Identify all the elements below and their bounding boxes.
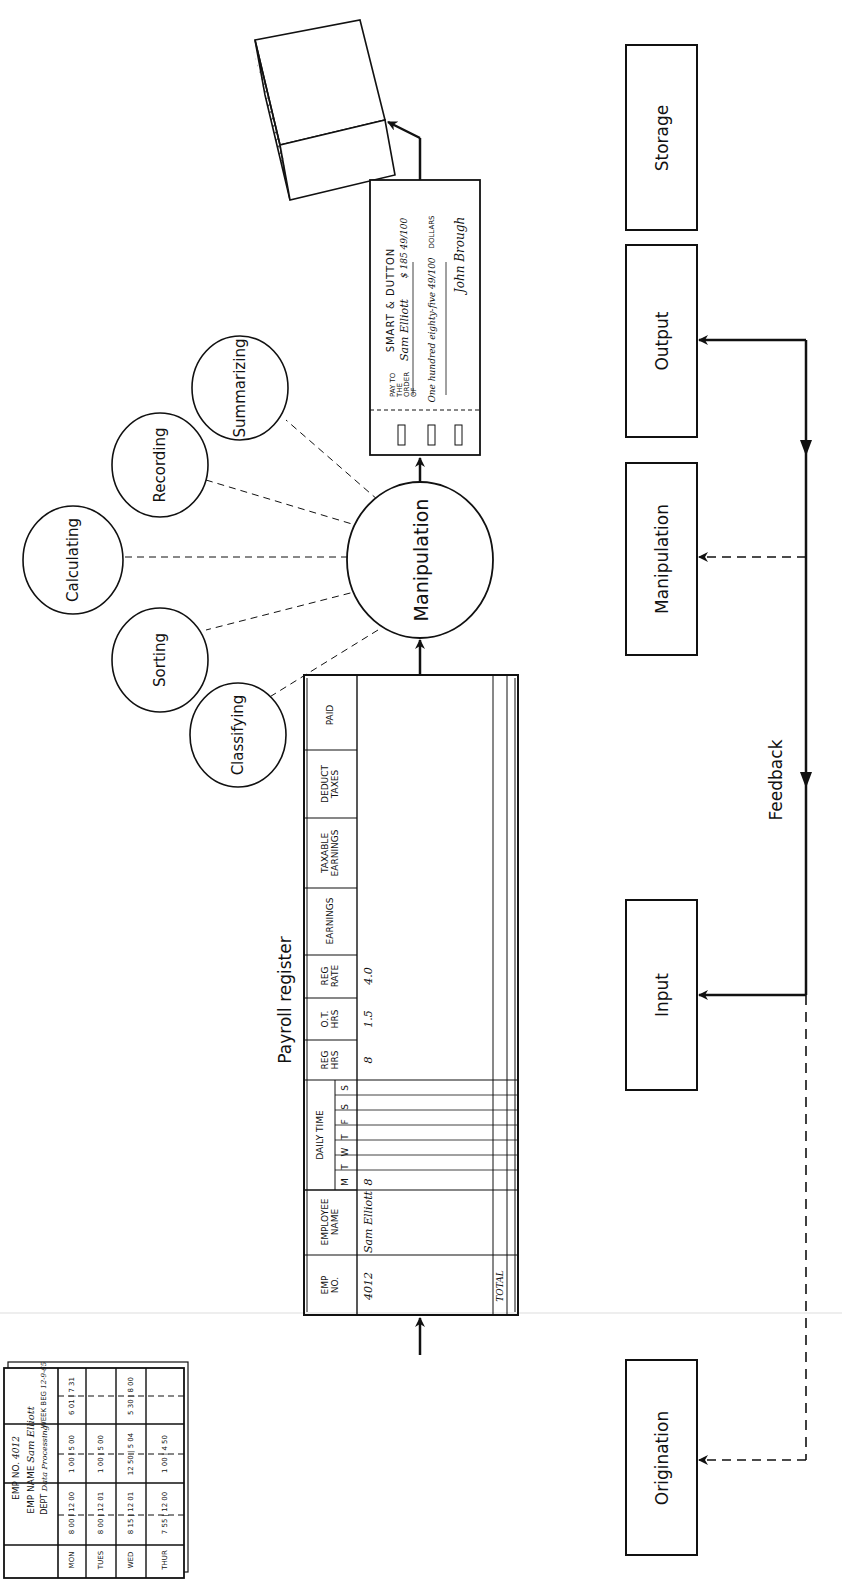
manipulation-circle-label: Manipulation xyxy=(410,499,432,622)
storage-label: Storage xyxy=(652,105,672,172)
tc-emp-no-label: EMP NO. 4012 xyxy=(11,1436,21,1500)
tc-mon-pm: 1 00 | 5 00 xyxy=(68,1435,76,1473)
tc-mon-am: 8 00 | 12 00 xyxy=(68,1492,76,1534)
operation-label: Summarizing xyxy=(231,339,249,438)
operation-label: Recording xyxy=(151,427,169,502)
header-reg-rate: REG RATE xyxy=(320,961,340,991)
tc-wed-pm: 12 50 | 5 04 xyxy=(127,1433,135,1475)
diagram-canvas xyxy=(0,0,842,1581)
arrow-down-icon xyxy=(800,772,812,788)
tc-thur-pm: 1 00 | 4 50 xyxy=(161,1435,169,1473)
header-daily-time: DAILY TIME xyxy=(315,1110,325,1159)
process-boxes xyxy=(626,45,697,1555)
cell-reg-hrs: 8 xyxy=(362,1057,375,1064)
header-ot-hrs: O.T. HRS xyxy=(320,1004,340,1034)
check-payee: Sam Elliott xyxy=(398,299,411,361)
tc-day-wed: WED xyxy=(127,1552,135,1569)
tc-week-label: WEEK BEG 12-9-65 xyxy=(40,1362,48,1428)
day-m: M xyxy=(340,1178,350,1186)
day-f: F xyxy=(340,1119,350,1124)
tc-day-tues: TUES xyxy=(97,1551,105,1569)
tc-thur-am: 7 55 | 12 00 xyxy=(161,1492,169,1534)
feedback-loop xyxy=(699,340,812,1460)
output-label: Output xyxy=(652,311,672,370)
header-taxable-earnings: TAXABLE EARNINGS xyxy=(320,826,340,881)
arrow-down-icon xyxy=(800,440,812,456)
input-label: Input xyxy=(652,973,672,1017)
total-label: TOTAL xyxy=(495,1270,505,1301)
header-emp-no: EMP NO. xyxy=(320,1270,340,1300)
cell-reg-rate: 4.0 xyxy=(362,967,375,985)
cell-mon-hours: 8 xyxy=(362,1179,375,1186)
header-reg-hrs: REG HRS xyxy=(320,1045,340,1075)
day-s: S xyxy=(340,1104,350,1110)
origination-label: Origination xyxy=(652,1411,672,1505)
tc-dept-label: DEPT Data Processing xyxy=(40,1425,49,1514)
operation-label: Classifying xyxy=(229,695,247,776)
tc-tues-pm: 1 00 | 5 00 xyxy=(97,1435,105,1473)
header-earnings: EARNINGS xyxy=(325,898,335,945)
tc-wed-eve: 5 30 | 8 00 xyxy=(127,1377,135,1415)
cell-emp-no: 4012 xyxy=(362,1272,375,1300)
day-t: T xyxy=(340,1164,350,1170)
cell-ot-hrs: 1.5 xyxy=(362,1010,375,1028)
check-dollars-label: DOLLARS xyxy=(428,216,436,249)
feedback-label: Feedback xyxy=(766,740,786,821)
tc-emp-name-label: EMP NAME Sam Elliott xyxy=(25,1406,36,1513)
operation-label: Calculating xyxy=(64,518,82,602)
check-amount-words: One hundred eighty-five 49/100 xyxy=(427,257,437,402)
header-deduct-taxes: DEDUCT TAXES xyxy=(320,759,340,809)
check-pay-to-label: PAY TO THE ORDER OF xyxy=(390,367,418,397)
card-file-stack-icon xyxy=(252,20,395,200)
header-employee-name: EMPLOYEE NAME xyxy=(320,1195,340,1250)
tc-wed-am: 8 15 | 12 01 xyxy=(127,1492,135,1534)
day-w: W xyxy=(340,1148,350,1157)
check-company: SMART & DUTTON xyxy=(385,248,396,353)
manipulation-label: Manipulation xyxy=(652,504,672,614)
payroll-register-title: Payroll register xyxy=(275,936,295,1063)
day-s: S xyxy=(340,1085,350,1091)
header-paid: PAID xyxy=(325,685,335,745)
tc-day-thur: THUR xyxy=(161,1550,169,1570)
day-t: T xyxy=(340,1134,350,1140)
tc-day-mon: MON xyxy=(68,1552,76,1569)
cell-employee-name: Sam Elliott xyxy=(362,1191,375,1253)
tc-tues-am: 8 00 | 12 01 xyxy=(97,1492,105,1534)
check-amount: $ 185 49/100 xyxy=(399,218,409,278)
operation-label: Sorting xyxy=(151,633,169,687)
check-signature: John Brough xyxy=(453,217,467,293)
tc-mon-eve: 6 01 | 7 31 xyxy=(68,1377,76,1415)
